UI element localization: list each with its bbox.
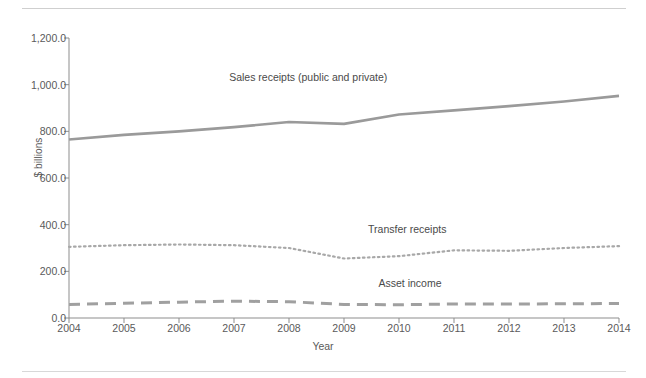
series-label-2: Asset income (378, 277, 441, 289)
series-label-0: Sales receipts (public and private) (229, 71, 387, 83)
x-axis-tick-label: 2013 (552, 322, 575, 334)
x-axis-tick-label: 2009 (332, 322, 355, 334)
x-axis-tick-label: 2004 (57, 322, 80, 334)
y-axis-tick-label: 1,000.0 (6, 79, 66, 91)
x-axis-tick-label: 2007 (222, 322, 245, 334)
y-axis-tick-label: 600.0 (6, 172, 66, 184)
x-axis-tick-label: 2005 (112, 322, 135, 334)
x-axis-tick-label: 2011 (443, 322, 466, 334)
series-line-0 (69, 96, 619, 140)
series-line-1 (69, 245, 619, 259)
x-axis-tick-label: 2006 (167, 322, 190, 334)
x-axis-tick-label: 2012 (497, 322, 520, 334)
y-axis-tick-label: 1,200.0 (6, 32, 66, 44)
y-axis-tick-label: 400.0 (6, 219, 66, 231)
x-axis-tick-label: 2008 (277, 322, 300, 334)
series-label-1: Transfer receipts (368, 223, 446, 235)
chart-plot-area (0, 0, 646, 378)
x-axis-title: Year (0, 340, 646, 352)
y-axis-tick-labels: 0.0200.0400.0600.0800.01,000.01,200.0 (0, 0, 66, 378)
x-axis-tick-label: 2010 (387, 322, 410, 334)
series-line-2 (69, 301, 619, 305)
y-axis-tick-label: 800.0 (6, 125, 66, 137)
line-chart-figure: $ billions Year 0.0200.0400.0600.0800.01… (0, 0, 646, 378)
y-axis-tick-label: 200.0 (6, 265, 66, 277)
x-axis-tick-label: 2014 (607, 322, 630, 334)
